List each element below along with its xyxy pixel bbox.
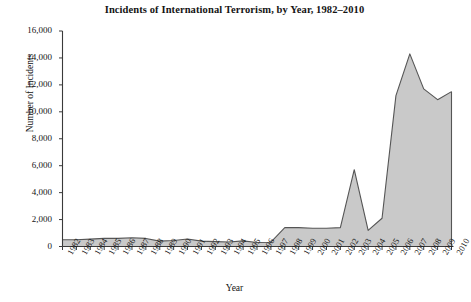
area-fill <box>63 54 452 247</box>
y-tick-label: 10,000 <box>8 107 52 116</box>
y-tick-label: 16,000 <box>8 26 52 35</box>
y-tick-label: 2,000 <box>8 215 52 224</box>
y-tick-label: 12,000 <box>8 80 52 89</box>
y-tick-label: 4,000 <box>8 188 52 197</box>
y-tick-label: 6,000 <box>8 161 52 170</box>
y-tick-label: 8,000 <box>8 134 52 143</box>
y-tick-label: 14,000 <box>8 53 52 62</box>
y-tick-label: 0 <box>8 242 52 251</box>
